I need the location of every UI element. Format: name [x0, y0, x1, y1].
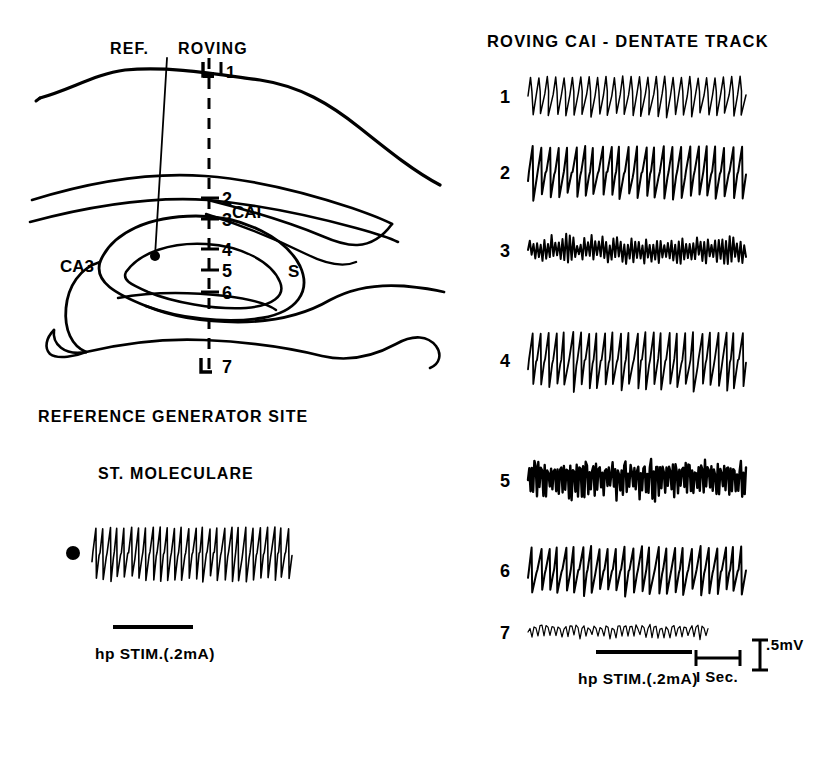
roving-track-traces: 1234567 — [480, 60, 840, 680]
trace-2 — [528, 146, 746, 201]
trace-1 — [528, 76, 746, 118]
trace-number-1: 1 — [500, 87, 510, 107]
reference-stim-label: hp STIM.(.2mA) — [95, 645, 215, 663]
electrode-depth-number: 5 — [222, 261, 232, 281]
trace-7 — [528, 624, 708, 639]
reference-electrode-tip — [150, 251, 160, 261]
trace-number-2: 2 — [500, 163, 510, 183]
electrode-depth-5: 5 — [201, 261, 232, 281]
time-scale-label: I Sec. — [696, 668, 738, 685]
trace-number-4: 4 — [500, 351, 510, 371]
time-scale-bar — [696, 650, 740, 666]
surface-tick — [36, 98, 40, 101]
reference-stim-bar — [113, 625, 193, 629]
region-label-ca3: CA3 — [60, 257, 94, 276]
reference-generator-heading: REFERENCE GENERATOR SITE — [38, 408, 308, 426]
reference-trace-plot — [0, 470, 420, 670]
electrode-depth-2: 2 — [201, 189, 232, 209]
trace-number-6: 6 — [500, 561, 510, 581]
electrode-depth-6: 6 — [201, 283, 232, 303]
reference-electrode-shaft — [155, 58, 167, 256]
trace-ST. MOLECULARE — [92, 527, 292, 582]
electrode-depth-number: 4 — [222, 240, 232, 260]
figure-canvas: 1234567CAICA3S REF. ROVING REFERENCE GEN… — [0, 0, 840, 758]
track-panel-title: ROVING CAI - DENTATE TRACK — [487, 32, 769, 51]
electrode-depth-number: 2 — [222, 189, 232, 209]
trace-3 — [528, 234, 746, 264]
electrode-depth-number: 1 — [226, 63, 235, 82]
region-label-ca1: CAI — [232, 203, 261, 222]
trace-5 — [528, 459, 746, 502]
ca3-terminal — [47, 330, 86, 357]
electrode-depth-number: 7 — [222, 357, 232, 377]
trace-number-3: 3 — [500, 241, 510, 261]
ventricle-lower-contour — [86, 337, 439, 368]
hippocampus-diagram: 1234567CAICA3S — [0, 0, 470, 400]
track-stim-label: hp STIM.(.2mA) — [578, 670, 698, 688]
trace-6 — [528, 546, 746, 597]
ref-electrode-label: REF. — [110, 40, 149, 58]
region-label-subiculum: S — [288, 262, 299, 281]
trace-number-5: 5 — [500, 471, 510, 491]
roving-electrode-label: ROVING — [178, 40, 248, 58]
electrode-depth-7: 7 — [201, 357, 232, 377]
track-stim-bar — [596, 650, 692, 654]
reference-site-dot — [66, 546, 80, 560]
trace-number-7: 7 — [500, 623, 510, 643]
electrode-depth-number: 3 — [222, 210, 232, 230]
voltage-scale-label: .5mV — [766, 636, 804, 653]
cortical-surface-contour — [40, 69, 440, 185]
trace-4 — [528, 332, 746, 392]
electrode-depth-number: 6 — [222, 283, 232, 303]
dentate-gyrus-inner — [125, 244, 281, 309]
